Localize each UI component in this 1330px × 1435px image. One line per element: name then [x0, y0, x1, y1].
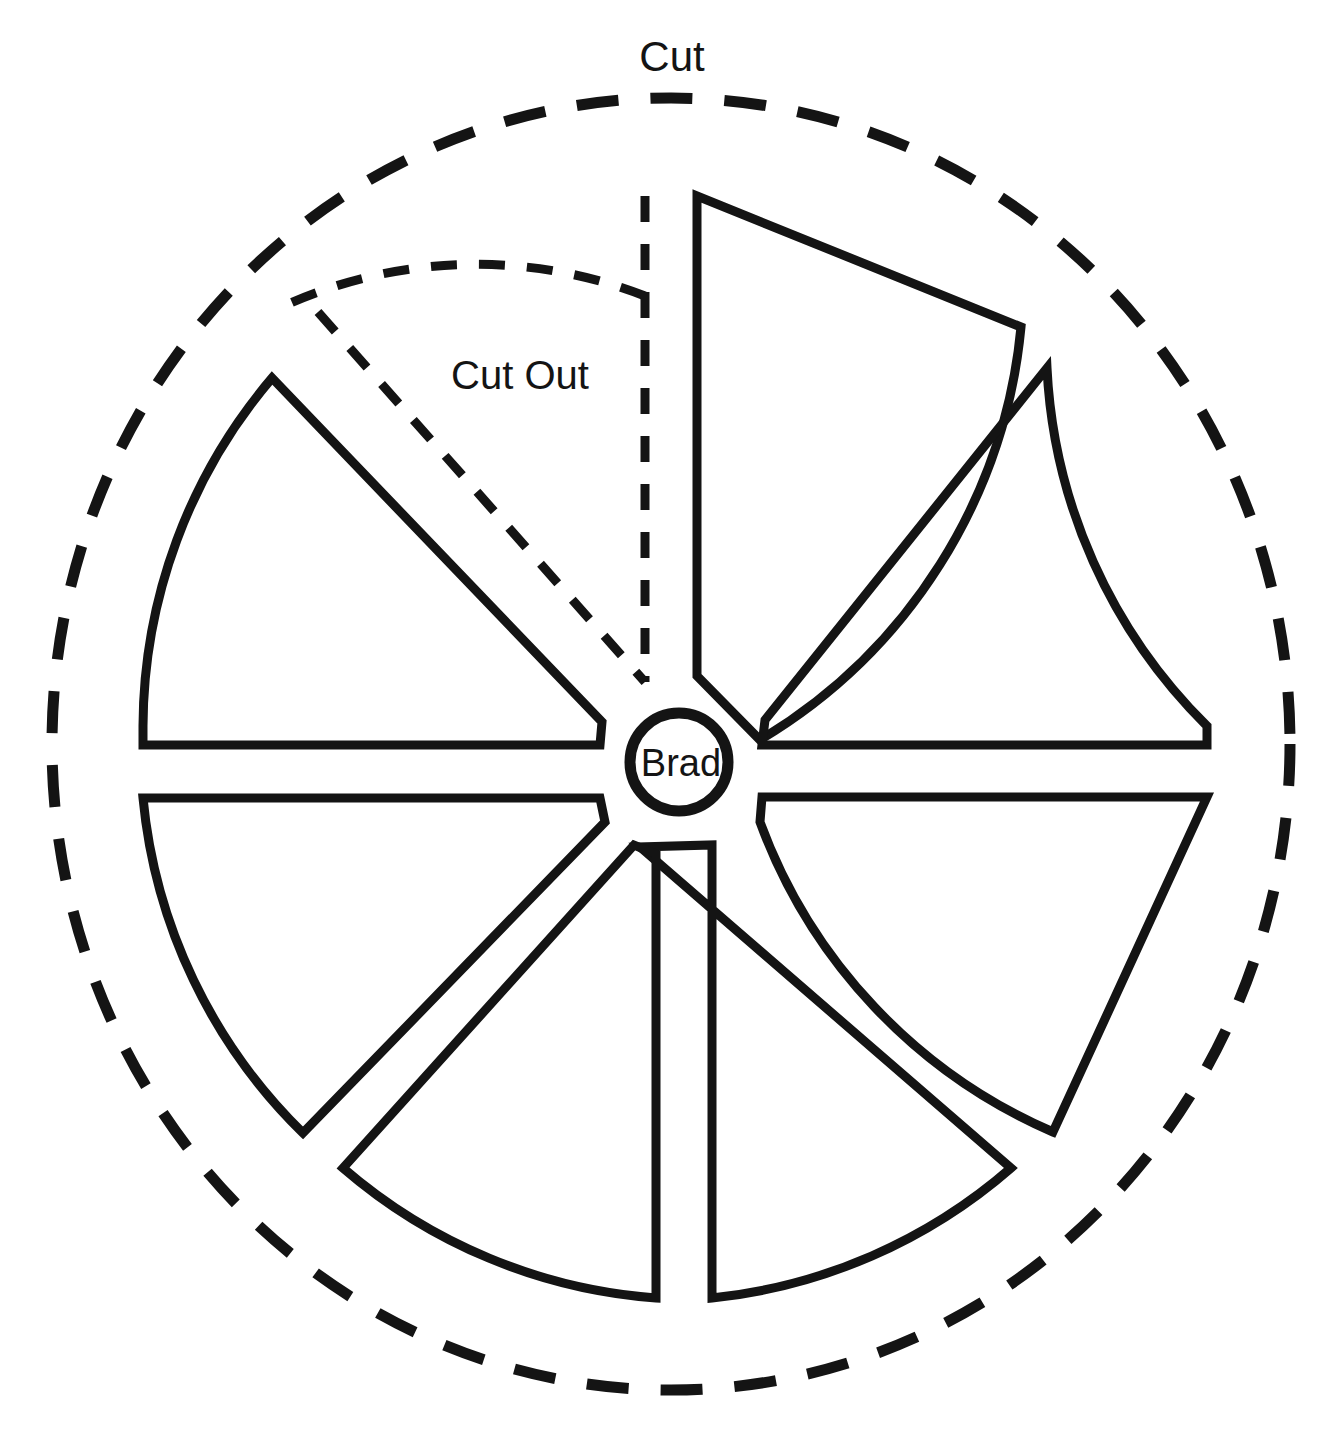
cut-out-label: Cut Out [451, 353, 589, 397]
wheel-sector-5[interactable] [343, 845, 656, 1298]
wheel-sector-3[interactable] [760, 797, 1207, 1132]
wheel-sector-7[interactable] [143, 378, 602, 745]
wheel-sector-6[interactable] [143, 798, 605, 1133]
diagram-canvas: Cut Cut Out Brad [0, 0, 1330, 1435]
wheel-sector-4[interactable] [640, 845, 1011, 1298]
spinner-wheel-diagram: Cut Cut Out Brad [0, 0, 1330, 1435]
cut-out-arc [275, 264, 645, 310]
brad-label: Brad [641, 742, 721, 784]
cut-label: Cut [639, 33, 705, 80]
